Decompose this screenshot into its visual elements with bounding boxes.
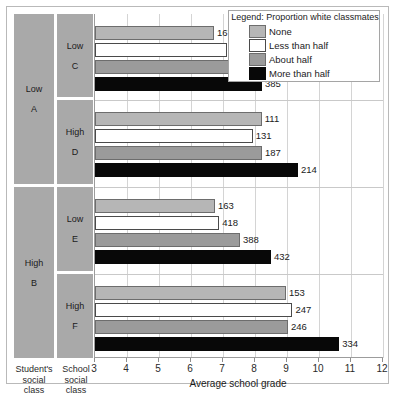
tick-mark-5 [158, 358, 159, 362]
tick-label-5: 5 [148, 363, 168, 375]
bar-value-label-g2-s2: 388 [243, 233, 259, 247]
group-separator-1 [95, 187, 383, 188]
student-band-low-a-line1: Low [26, 84, 43, 94]
bar-value-label-g1-s2: 187 [265, 146, 281, 160]
bar-g1-s0 [95, 112, 262, 126]
student-social-class-column: Low A High B [14, 14, 54, 358]
school-band-high-f: High F [57, 274, 93, 358]
school-caption-line1: School [62, 364, 90, 374]
student-caption-line3: class [24, 385, 45, 395]
student-band-low-a-line2: A [26, 104, 43, 114]
school-band-high-f-line2: F [66, 321, 85, 331]
student-band-high-b-line2: B [25, 278, 44, 288]
school-caption-line3: class [66, 385, 87, 395]
tick-label-6: 6 [180, 363, 200, 375]
x-axis-title: Average school grade [94, 378, 382, 389]
tick-label-7: 7 [212, 363, 232, 375]
legend-label-1: Less than half [269, 39, 328, 52]
school-band-low-e-line2: E [67, 234, 84, 244]
legend-swatch-1 [249, 39, 266, 52]
bar-g3-s3 [95, 337, 339, 351]
school-social-class-caption: School social class [55, 364, 97, 396]
tick-label-10: 10 [308, 363, 328, 375]
x-axis-line [95, 357, 383, 358]
student-caption-line2: social [22, 375, 45, 385]
tick-label-8: 8 [244, 363, 264, 375]
legend-swatch-0 [249, 25, 266, 38]
bar-g1-s3 [95, 163, 298, 177]
cut-off-footnote [8, 398, 388, 406]
tick-label-12: 12 [372, 363, 392, 375]
bar-value-label-g3-s3: 334 [342, 337, 358, 351]
legend-swatch-3 [249, 67, 266, 80]
tick-mark-10 [318, 358, 319, 362]
group-separator-2 [95, 274, 383, 275]
school-band-high-d-line2: D [66, 147, 85, 157]
gridline-12 [383, 14, 384, 358]
bar-value-label-g1-s3: 214 [301, 163, 317, 177]
student-band-low-a: Low A [14, 14, 54, 184]
bar-value-label-g3-s0: 153 [289, 286, 305, 300]
student-band-high-b-line1: High [25, 258, 44, 268]
bar-g0-s2 [95, 60, 237, 74]
tick-mark-12 [382, 358, 383, 362]
school-band-high-d-line1: High [66, 127, 85, 137]
tick-label-11: 11 [340, 363, 360, 375]
bar-g3-s0 [95, 286, 286, 300]
legend-title: Legend: Proportion white classmates [230, 12, 380, 23]
tick-mark-6 [190, 358, 191, 362]
school-band-high-d: High D [57, 100, 93, 184]
student-caption-line1: Student's [15, 364, 52, 374]
legend: Legend: Proportion white classmates None… [228, 10, 380, 82]
student-social-class-caption: Student's social class [10, 364, 58, 396]
bar-g2-s3 [95, 250, 271, 264]
bar-g3-s1 [95, 303, 292, 317]
bar-g0-s1 [95, 43, 227, 57]
school-band-high-f-line1: High [66, 301, 85, 311]
school-band-low-e: Low E [57, 187, 93, 271]
school-caption-line2: social [64, 375, 87, 385]
legend-label-3: More than half [269, 67, 330, 80]
bar-value-label-g3-s2: 246 [291, 320, 307, 334]
bar-g2-s1 [95, 216, 219, 230]
bar-value-label-g1-s0: 111 [265, 112, 279, 126]
school-band-low-e-line1: Low [67, 214, 84, 224]
bar-value-label-g2-s1: 418 [222, 216, 238, 230]
legend-label-2: About half [269, 53, 312, 66]
bar-g2-s0 [95, 199, 215, 213]
tick-mark-7 [222, 358, 223, 362]
bar-value-label-g3-s1: 247 [295, 303, 311, 317]
chart-figure: Low A High B Low C High D Low [0, 0, 396, 407]
tick-mark-4 [126, 358, 127, 362]
bar-value-label-g1-s1: 131 [256, 129, 272, 143]
legend-swatch-2 [249, 53, 266, 66]
tick-mark-9 [286, 358, 287, 362]
tick-mark-11 [350, 358, 351, 362]
tick-mark-3 [94, 358, 95, 362]
tick-label-4: 4 [116, 363, 136, 375]
school-band-low-c-line1: Low [67, 41, 84, 51]
group-separator-0 [95, 100, 383, 101]
bar-value-label-g2-s0: 163 [218, 199, 234, 213]
tick-mark-8 [254, 358, 255, 362]
tick-label-9: 9 [276, 363, 296, 375]
bar-value-label-g2-s3: 432 [274, 250, 290, 264]
school-social-class-column: Low C High D Low E High F [57, 14, 93, 358]
bar-g1-s2 [95, 146, 262, 160]
bar-g3-s2 [95, 320, 288, 334]
bar-g2-s2 [95, 233, 240, 247]
bar-g0-s0 [95, 26, 214, 40]
bar-g1-s1 [95, 129, 253, 143]
school-band-low-c-line2: C [67, 61, 84, 71]
legend-label-0: None [269, 25, 292, 38]
student-band-high-b: High B [14, 187, 54, 358]
school-band-low-c: Low C [57, 14, 93, 97]
